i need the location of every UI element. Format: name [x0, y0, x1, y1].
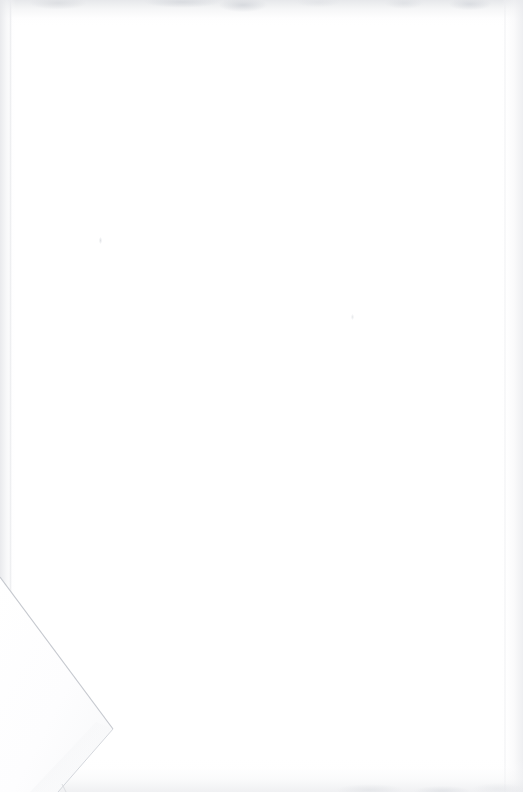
paper-substrate: [0, 0, 523, 792]
scanned-page: [0, 0, 523, 792]
